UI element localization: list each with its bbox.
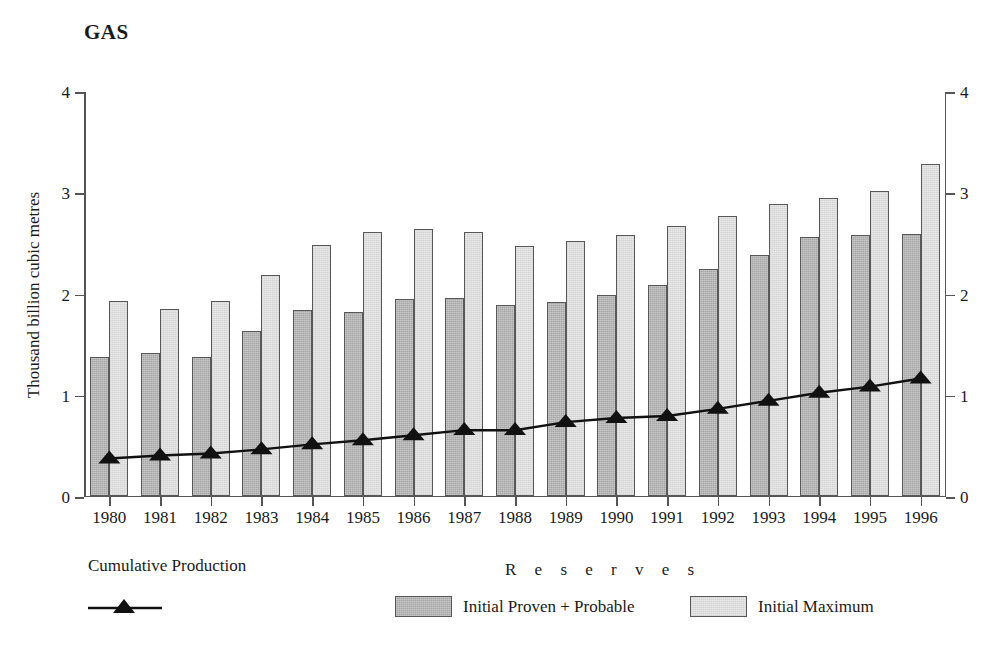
bar-group (642, 226, 693, 495)
x-tick (109, 497, 111, 506)
bar-group (490, 246, 541, 495)
x-tick (667, 497, 669, 506)
bar (921, 164, 940, 495)
x-tick (160, 497, 162, 506)
bar-group (794, 198, 845, 496)
bar (90, 357, 109, 496)
bar-group (236, 275, 287, 496)
bar-group (439, 232, 490, 495)
y-tick-left-4 (75, 92, 84, 94)
bar (464, 232, 483, 495)
x-axis-label-1980: 1980 (92, 508, 126, 528)
y-tick-right-0 (946, 497, 955, 499)
y-tick-left-0 (75, 497, 84, 499)
y-tick-label-left-0: 0 (62, 489, 71, 506)
bar (395, 299, 414, 495)
bar-group (338, 232, 389, 495)
bar-group (540, 241, 591, 495)
x-axis-label-1983: 1983 (244, 508, 278, 528)
bar (109, 301, 128, 495)
bar-group (287, 245, 338, 495)
bar-group (388, 229, 439, 495)
y-tick-right-2 (946, 295, 955, 297)
legend-swatch-maximum-icon (690, 596, 747, 617)
legend-label-maximum: Initial Maximum (758, 597, 874, 617)
x-axis-label-1993: 1993 (752, 508, 786, 528)
bar (344, 312, 363, 495)
x-axis-label-1984: 1984 (295, 508, 329, 528)
x-tick (566, 497, 568, 506)
y-tick-left-3 (75, 193, 84, 195)
bar-group (84, 301, 135, 495)
y-tick-right-4 (946, 92, 955, 94)
bar (547, 302, 566, 495)
bar (445, 298, 464, 495)
bar (667, 226, 686, 495)
x-tick (718, 497, 720, 506)
legend-group-title-reserves: R e s e r v e s (505, 560, 701, 580)
x-tick (921, 497, 923, 506)
bar (160, 309, 179, 495)
x-axis-label-1996: 1996 (904, 508, 938, 528)
x-axis-label-1985: 1985 (346, 508, 380, 528)
bar (800, 237, 819, 495)
bar (211, 301, 230, 495)
bar (819, 198, 838, 496)
bar (312, 245, 331, 495)
x-tick (515, 497, 517, 506)
x-axis-label-1991: 1991 (650, 508, 684, 528)
bar (242, 331, 261, 495)
x-axis-label-1995: 1995 (853, 508, 887, 528)
y-tick-label-left-1: 1 (62, 387, 71, 404)
x-tick (616, 497, 618, 506)
x-axis-label-1992: 1992 (701, 508, 735, 528)
x-tick (414, 497, 416, 506)
y-tick-left-2 (75, 295, 84, 297)
y-tick-label-right-3: 3 (960, 185, 969, 202)
legend-swatch-proven-icon (395, 596, 452, 617)
y-tick-label-left-3: 3 (62, 185, 71, 202)
bar-group (743, 204, 794, 496)
bar (496, 305, 515, 495)
y-axis-title-label: Thousand billion cubic metres (24, 191, 44, 397)
bar (902, 234, 921, 495)
bar (718, 216, 737, 495)
bar (363, 232, 382, 495)
x-tick (312, 497, 314, 506)
legend-label-proven: Initial Proven + Probable (463, 597, 635, 617)
bar-group (185, 301, 236, 495)
x-axis-label-1988: 1988 (498, 508, 532, 528)
y-tick-right-1 (946, 396, 955, 398)
legend-item-initial-maximum: Initial Maximum (690, 596, 874, 617)
legend-item-initial-proven-probable: Initial Proven + Probable (395, 596, 635, 617)
x-axis-label-1989: 1989 (549, 508, 583, 528)
bar (192, 357, 211, 496)
y-tick-left-1 (75, 396, 84, 398)
bar (851, 235, 870, 495)
legend-label-cumulative-production: Cumulative Production (88, 556, 246, 576)
x-tick (464, 497, 466, 506)
y-tick-label-right-2: 2 (960, 286, 969, 303)
x-axis-label-1990: 1990 (599, 508, 633, 528)
x-axis-label-1982: 1982 (194, 508, 228, 528)
legend-line-marker-icon (88, 596, 162, 616)
y-tick-label-right-1: 1 (960, 387, 969, 404)
bar (616, 235, 635, 495)
bar (648, 285, 667, 496)
bar (293, 310, 312, 495)
x-tick (363, 497, 365, 506)
x-axis-label-1981: 1981 (143, 508, 177, 528)
x-axis-label-1994: 1994 (802, 508, 836, 528)
x-tick (819, 497, 821, 506)
y-tick-label-right-4: 4 (960, 84, 969, 101)
bar (769, 204, 788, 496)
page-title: GAS (84, 20, 129, 45)
y-tick-right-3 (946, 193, 955, 195)
bar (597, 295, 616, 495)
bar (870, 191, 889, 496)
x-tick (211, 497, 213, 506)
chart-plot-area: 01234 01234 (84, 92, 946, 497)
y-axis-title: Thousand billion cubic metres (22, 92, 46, 497)
bar-group (692, 216, 743, 495)
bar (515, 246, 534, 495)
